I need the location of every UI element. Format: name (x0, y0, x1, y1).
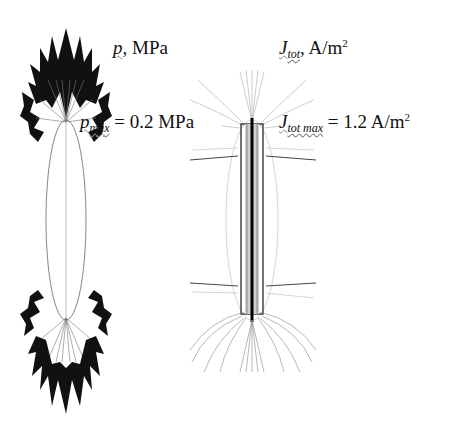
pressure-unit-label: p, MPa (113, 38, 168, 57)
current-density-max-label: Jtot max = 1.2 A/m2 (279, 112, 410, 134)
current-density-unit-label: Jtot, A/m2 (279, 38, 348, 60)
figure-graphics (0, 0, 463, 426)
pressure-max-label: pmax = 0.2 MPa (80, 112, 194, 134)
pressure-diagram (20, 28, 112, 414)
